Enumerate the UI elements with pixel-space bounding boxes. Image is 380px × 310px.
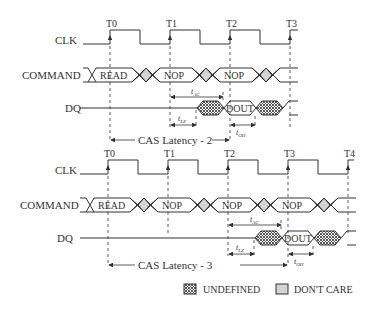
tick-t1-b: T1 [164, 148, 175, 159]
command-bus-2: READ NOP NOP NOP [80, 198, 356, 212]
command-nop-1: NOP [164, 70, 184, 81]
dq-bus: DOUT [80, 101, 298, 115]
sdram-read-timing-diagram: CLK COMMAND DQ T0 T1 T2 T3 [0, 0, 380, 310]
clk-label: CLK [55, 34, 77, 46]
command-bus: READ NOP NOP [83, 68, 298, 82]
tick-t3-b: T3 [284, 148, 295, 159]
dq-bus-2: DOUT [80, 231, 356, 245]
tick-t4-b: T4 [344, 148, 355, 159]
t-ac-label: tAC [191, 87, 200, 97]
cas-latency-3: CAS Latency - 3 [138, 259, 213, 271]
timing-cl3: CLK COMMAND DQ T0 T1 T2 T3 T4 [20, 148, 356, 271]
dont-care-swatch [276, 284, 288, 294]
command-label: COMMAND [22, 69, 81, 81]
tick-t2-b: T2 [224, 148, 235, 159]
command-nop-2: NOP [224, 70, 244, 81]
legend-undefined: UNDEFINED [203, 284, 260, 295]
dq-label: DQ [65, 102, 81, 114]
clk-waveform [83, 30, 298, 44]
command-read-2: READ [98, 200, 125, 211]
tick-t0: T0 [106, 18, 117, 29]
dout-2: DOUT [284, 233, 312, 244]
dq-label-2: DQ [57, 232, 73, 244]
cas-latency-2: CAS Latency - 2 [138, 134, 212, 146]
clk-label-2: CLK [55, 164, 77, 176]
t-lz-label: tLZ [178, 114, 186, 124]
command-nop-b2: NOP [222, 200, 242, 211]
clk-waveform-2 [80, 160, 354, 174]
t-lz-label-2: tLZ [236, 243, 244, 253]
legend: UNDEFINED DON'T CARE [184, 284, 353, 295]
tick-t3: T3 [286, 18, 297, 29]
dout: DOUT [226, 103, 254, 114]
command-nop-b1: NOP [162, 200, 182, 211]
tick-t2: T2 [226, 18, 237, 29]
undefined-swatch [184, 284, 196, 294]
command-read: READ [100, 70, 127, 81]
t-oh-label: tOH [236, 128, 246, 138]
command-nop-b3: NOP [282, 200, 302, 211]
command-label-2: COMMAND [20, 199, 79, 211]
legend-dont-care: DON'T CARE [294, 284, 353, 295]
t-oh-label-2: tOH [294, 257, 304, 267]
tick-t1: T1 [166, 18, 177, 29]
t-ac-label-2: tAC [250, 215, 259, 225]
timing-cl2: CLK COMMAND DQ T0 T1 T2 T3 [22, 18, 298, 146]
tick-t0-b: T0 [104, 148, 115, 159]
